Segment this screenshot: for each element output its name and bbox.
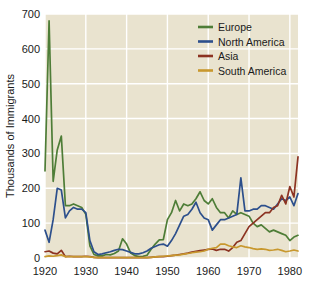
plot-area-background — [45, 14, 298, 258]
x-tick-label-1950: 1950 — [155, 265, 179, 277]
x-tick-label-1920: 1920 — [33, 265, 57, 277]
x-tick-label-1930: 1930 — [74, 265, 98, 277]
legend-label-north-america: North America — [218, 36, 285, 48]
y-tick-label-300: 300 — [22, 147, 40, 159]
y-tick-label-600: 600 — [22, 43, 40, 55]
x-tick-label-1940: 1940 — [114, 265, 138, 277]
chart-canvas: 0100200300400500600700 19201930194019501… — [0, 0, 312, 289]
y-axis-title: Thousands of Immigrants — [4, 73, 16, 198]
y-tick-label-400: 400 — [22, 113, 40, 125]
x-tick-label-1960: 1960 — [196, 265, 220, 277]
y-tick-label-0: 0 — [34, 252, 40, 264]
x-tick-label-1970: 1970 — [237, 265, 261, 277]
legend-label-south-america: South America — [218, 65, 286, 77]
y-tick-label-200: 200 — [22, 182, 40, 194]
y-tick-label-700: 700 — [22, 8, 40, 20]
x-tick-label-1980: 1980 — [278, 265, 302, 277]
legend-label-europe: Europe — [218, 21, 252, 33]
y-tick-label-500: 500 — [22, 78, 40, 90]
immigration-line-chart: 0100200300400500600700 19201930194019501… — [0, 0, 312, 289]
y-tick-label-100: 100 — [22, 217, 40, 229]
legend-label-asia: Asia — [218, 50, 239, 62]
